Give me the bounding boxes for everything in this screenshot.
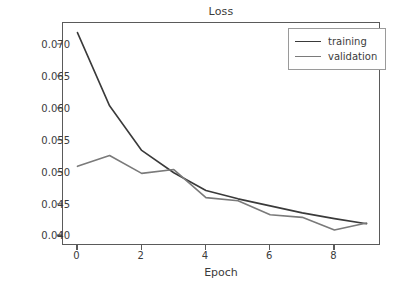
- x-axis-tick-label: 2: [121, 250, 161, 261]
- chart-figure: Loss Epoch trainingvalidation 0.0400.045…: [0, 0, 406, 292]
- legend-line-swatch-training: [295, 41, 321, 42]
- chart-title-text: Loss: [209, 5, 234, 18]
- x-axis-tick-label: 4: [185, 250, 225, 261]
- x-axis-tick-label: 6: [249, 250, 289, 261]
- y-axis-tick-label: 0.070: [18, 39, 70, 50]
- x-axis-tick-label: 0: [56, 250, 96, 261]
- chart-title: Loss: [0, 5, 406, 18]
- series-line-validation: [77, 156, 366, 231]
- legend-item-validation[interactable]: validation: [295, 49, 377, 64]
- x-axis-tick-label: 8: [313, 250, 353, 261]
- x-axis-label: Epoch: [62, 266, 380, 279]
- y-axis-tick-label: 0.055: [18, 134, 70, 145]
- y-axis-tick-label: 0.060: [18, 103, 70, 114]
- legend-line-swatch-validation: [295, 56, 321, 57]
- chart-legend: trainingvalidation: [288, 28, 386, 70]
- legend-label-validation: validation: [328, 51, 377, 62]
- y-axis-tick-label: 0.050: [18, 166, 70, 177]
- y-axis-tick-label: 0.065: [18, 71, 70, 82]
- legend-label-training: training: [328, 36, 367, 47]
- y-axis-tick-label: 0.040: [18, 230, 70, 241]
- legend-item-training[interactable]: training: [295, 34, 377, 49]
- y-axis-tick-label: 0.045: [18, 198, 70, 209]
